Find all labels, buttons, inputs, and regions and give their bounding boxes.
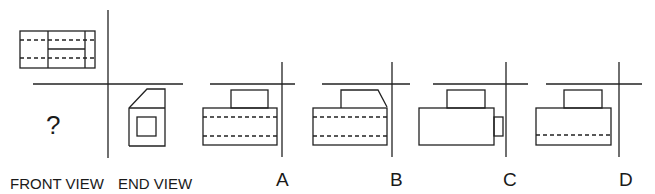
end-view-label: END VIEW — [118, 176, 192, 191]
option-d-drawing[interactable] — [536, 62, 642, 157]
option-d-label[interactable]: D — [619, 170, 633, 189]
option-c-drawing[interactable] — [419, 62, 528, 157]
unknown-front-view-question-mark: ? — [46, 112, 60, 138]
top-view — [20, 31, 95, 68]
orthographic-projection-diagram — [0, 0, 655, 194]
option-a-label[interactable]: A — [276, 170, 289, 189]
option-b-label[interactable]: B — [390, 170, 403, 189]
option-a-drawing[interactable] — [203, 62, 295, 157]
end-view — [129, 89, 165, 146]
front-view-label: FRONT VIEW — [10, 176, 104, 191]
option-b-drawing[interactable] — [313, 62, 410, 157]
option-c-label[interactable]: C — [503, 170, 517, 189]
